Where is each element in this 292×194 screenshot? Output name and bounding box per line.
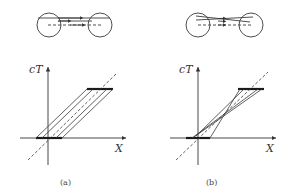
y-axis-label: cT <box>29 63 44 76</box>
schematic-a <box>37 13 112 37</box>
y-axis-label: cT <box>179 63 194 76</box>
x-axis-label: X <box>265 142 275 155</box>
caption-b: (b) <box>206 178 217 187</box>
panel-a: cT X (a) <box>20 13 126 187</box>
diagonal-dashed-line <box>28 73 117 160</box>
x-axis-label: X <box>114 142 124 155</box>
panel-b: cT X (b) <box>170 13 276 187</box>
caption-a: (a) <box>60 178 71 187</box>
crossing-worldlines <box>192 89 262 138</box>
schematic-b <box>186 13 263 37</box>
figure-canvas: cT X (a) cT X <box>0 0 292 194</box>
